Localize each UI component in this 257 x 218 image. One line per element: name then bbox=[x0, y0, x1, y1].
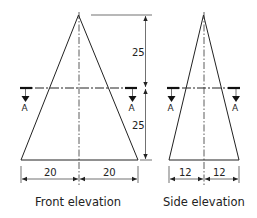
dim-label-lower-height: 25 bbox=[132, 120, 145, 131]
section-arrow-right-icon bbox=[232, 96, 240, 102]
side-elevation-label: Side elevation bbox=[163, 195, 245, 209]
dim-label-left-half: 20 bbox=[44, 167, 57, 178]
side-elevation-view: A A 12 12 Side elevation bbox=[163, 12, 245, 209]
dim-label-upper-height: 25 bbox=[132, 47, 145, 58]
section-arrow-left-icon bbox=[22, 96, 30, 102]
section-arrow-left-icon bbox=[168, 96, 176, 102]
dim-label-right-half: 12 bbox=[213, 167, 226, 178]
front-elevation-label: Front elevation bbox=[35, 195, 121, 209]
front-elevation-view: A A 25 25 20 20 Front elevation bbox=[20, 12, 152, 209]
projection-drawing: A A 25 25 20 20 Front elevation A A bbox=[0, 0, 257, 218]
section-label-left: A bbox=[168, 103, 175, 113]
dim-label-right-half: 20 bbox=[103, 167, 116, 178]
section-label-right: A bbox=[232, 103, 239, 113]
section-label-left: A bbox=[22, 103, 29, 113]
section-label-right: A bbox=[129, 103, 136, 113]
dim-label-left-half: 12 bbox=[179, 167, 192, 178]
section-arrow-right-icon bbox=[129, 96, 137, 102]
